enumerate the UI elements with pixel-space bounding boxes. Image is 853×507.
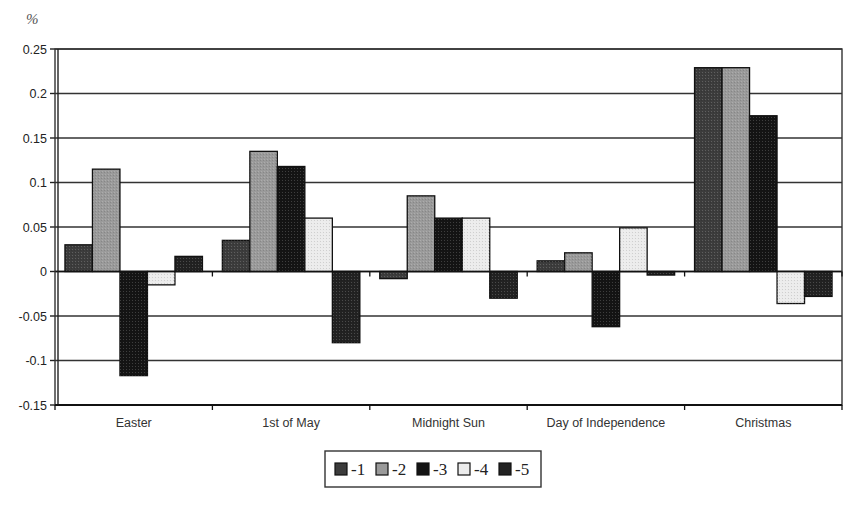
legend-swatch — [376, 463, 388, 475]
bar-texture — [592, 272, 620, 327]
legend-swatch — [458, 463, 470, 475]
x-category-label: Day of Independence — [546, 416, 665, 430]
bar-texture — [277, 166, 305, 271]
bars — [55, 68, 842, 376]
bar-texture — [222, 240, 250, 271]
bar-group-easter — [65, 169, 203, 375]
y-axis-ticks: 0.250.20.150.10.050-0.05-0.1-0.15 — [19, 43, 56, 413]
legend-swatch — [417, 463, 429, 475]
legend-label: -3 — [433, 460, 447, 479]
bar-texture — [777, 272, 805, 304]
y-tick-label: 0.15 — [23, 132, 47, 146]
bar-texture — [537, 261, 565, 272]
legend-swatch — [499, 463, 511, 475]
y-tick-label: -0.15 — [19, 399, 48, 413]
bar-texture — [380, 272, 408, 279]
bar-group-midnight-sun — [380, 196, 518, 298]
y-axis-unit-label: % — [26, 11, 39, 27]
bar-texture — [250, 151, 278, 271]
bar-texture — [565, 253, 593, 272]
x-category-label: Christmas — [735, 416, 791, 430]
bar-texture — [407, 196, 435, 272]
x-category-label: Easter — [116, 416, 152, 430]
legend: -1-2-3-4-5 — [325, 451, 541, 487]
bar-group-1st-of-may — [222, 151, 360, 342]
y-tick-label: -0.05 — [19, 310, 48, 324]
bar-group-day-of-independence — [537, 228, 675, 327]
y-tick-label: 0.2 — [30, 87, 47, 101]
legend-label: -5 — [515, 460, 529, 479]
bar-texture — [805, 272, 833, 297]
bar-texture — [120, 272, 148, 376]
bar-texture — [620, 228, 648, 272]
bar-texture — [65, 245, 93, 272]
bar-texture — [332, 272, 360, 343]
bar-texture — [490, 272, 518, 299]
x-category-label: 1st of May — [262, 416, 320, 430]
y-tick-label: 0.05 — [23, 221, 47, 235]
x-category-label: Midnight Sun — [412, 416, 485, 430]
legend-label: -1 — [351, 460, 365, 479]
legend-label: -4 — [474, 460, 489, 479]
bar-texture — [462, 218, 490, 271]
y-tick-label: 0.1 — [30, 176, 47, 190]
y-tick-label: 0 — [40, 265, 47, 279]
bar-texture — [435, 218, 463, 271]
bar-chart: % 0.250.20.150.10.050-0.05-0.1-0.15 East… — [0, 0, 853, 507]
bar-texture — [92, 169, 120, 271]
bar-texture — [175, 256, 203, 271]
y-tick-label: -0.1 — [25, 354, 47, 368]
y-tick-label: 0.25 — [23, 43, 47, 57]
bar-texture — [695, 68, 723, 272]
legend-swatch — [335, 463, 347, 475]
bar-texture — [722, 68, 750, 272]
bar-texture — [305, 218, 333, 271]
bar-texture — [750, 116, 778, 272]
bar-texture — [147, 272, 175, 285]
x-axis-labels: Easter1st of MayMidnight SunDay of Indep… — [116, 416, 792, 430]
legend-label: -2 — [392, 460, 406, 479]
bar-group-christmas — [695, 68, 833, 304]
